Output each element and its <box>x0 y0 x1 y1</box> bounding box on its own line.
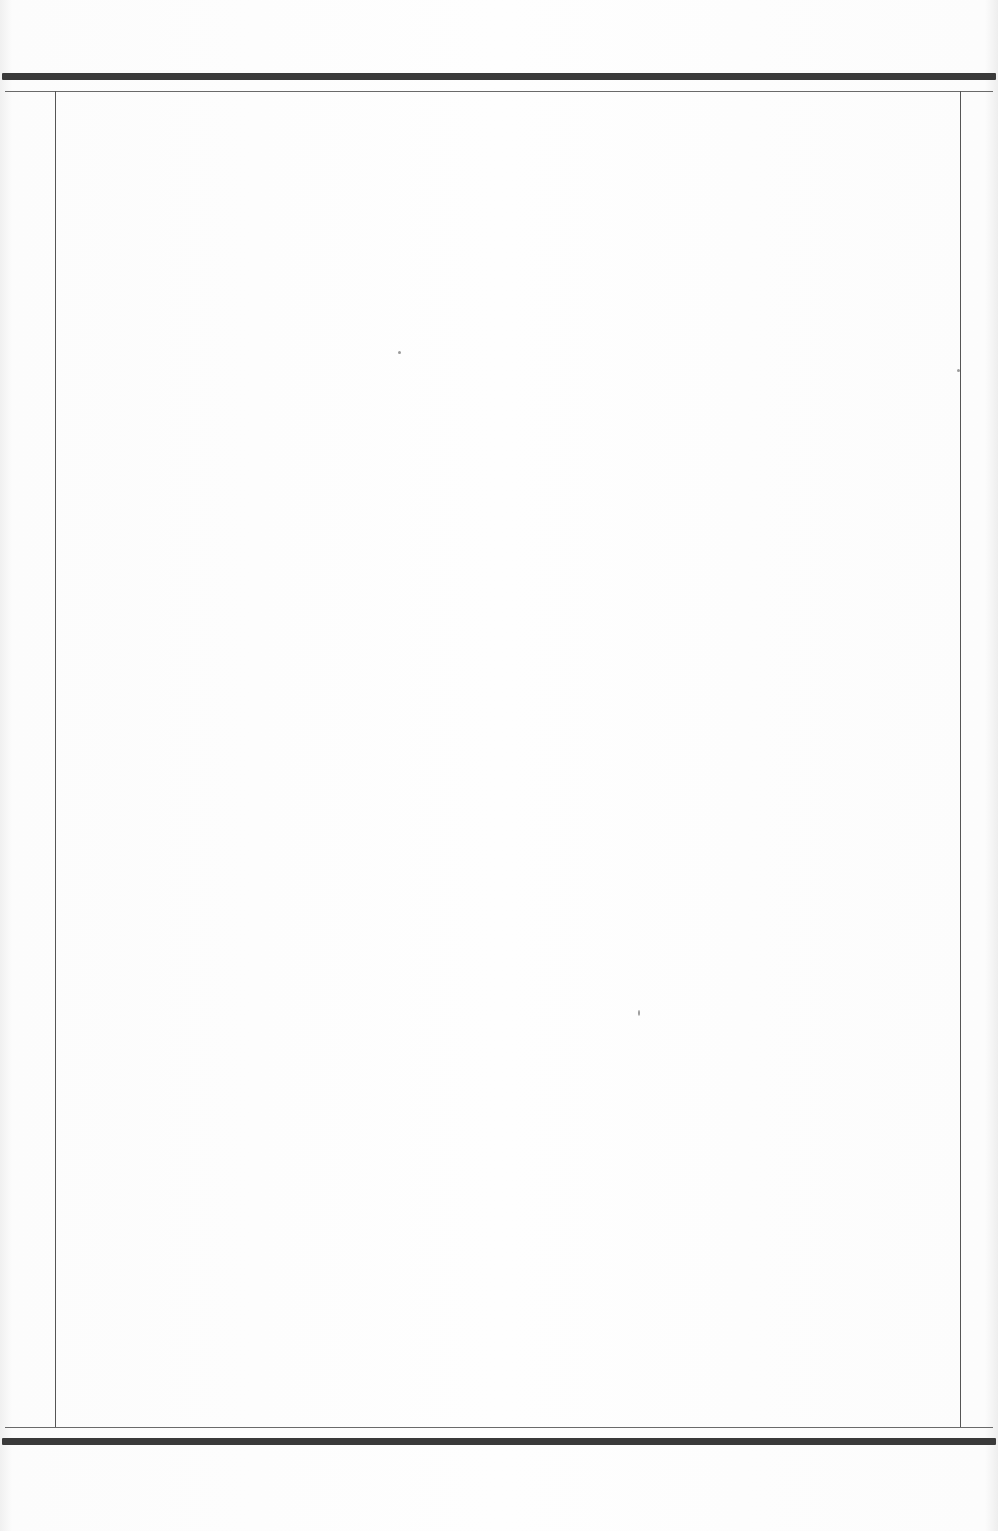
blank-ruled-page <box>0 0 998 1531</box>
scan-speck <box>398 351 401 354</box>
bottom-thin-rule <box>5 1427 993 1428</box>
scan-speck <box>638 1010 640 1016</box>
right-margin-rule <box>960 91 961 1427</box>
top-thin-rule <box>5 91 993 92</box>
top-thick-rule <box>2 73 996 80</box>
left-margin-rule <box>55 91 56 1427</box>
bottom-thick-rule <box>2 1438 996 1445</box>
scan-speck <box>957 369 960 372</box>
